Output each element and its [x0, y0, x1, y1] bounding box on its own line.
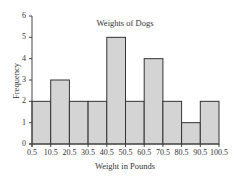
histogram-bar: [88, 101, 107, 144]
histogram-bar: [163, 101, 182, 144]
histogram-bar: [107, 37, 126, 144]
y-tick-label: 5: [16, 32, 26, 41]
y-tick-label: 3: [16, 75, 26, 84]
histogram-chart: Weights of Dogs Frequency Weight in Poun…: [0, 0, 237, 182]
y-tick-label: 6: [16, 11, 26, 20]
y-tick-label: 2: [16, 96, 26, 105]
histogram-bar: [32, 101, 51, 144]
histogram-bar: [126, 101, 145, 144]
y-tick-label: 1: [16, 118, 26, 127]
histogram-bar: [69, 101, 88, 144]
x-tick-label: 100.5: [207, 148, 231, 157]
histogram-bar: [51, 80, 70, 144]
histogram-bar: [144, 59, 163, 144]
chart-title: Weights of Dogs: [94, 18, 156, 28]
y-tick-label: 4: [16, 54, 26, 63]
x-axis-label: Weight in Pounds: [90, 161, 160, 171]
histogram-bar: [200, 101, 219, 144]
histogram-bar: [182, 123, 201, 144]
y-tick-label: 0: [16, 139, 26, 148]
